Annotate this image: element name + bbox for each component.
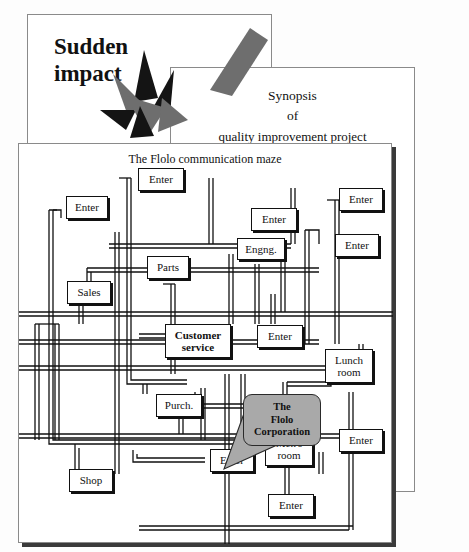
maze-node-label: Enter [149,173,173,185]
maze-node-label: Enter [262,213,286,225]
maze-node-label: Enter [349,434,373,446]
maze-node-customer-service: Customerservice [165,324,231,358]
maze-node-label: Enter [268,330,292,342]
maze-node-label: Lunchroom [335,354,363,378]
maze-node-enter-top-right: Enter [339,188,383,211]
maze-node-label: Enter [345,239,369,251]
callout-line-3: Corporation [254,426,310,439]
flolo-maze-page: The Flolo communication maze [18,143,392,543]
maze-node-shop: Shop [69,469,113,492]
maze-node-label: Customerservice [175,329,221,353]
scanned-document-canvas: Sudden impact Synopsis of quality improv… [0,0,469,552]
maze-node-label: Enter [349,193,373,205]
gray-diagonal-bar-icon [206,18,316,96]
maze-node-sales: Sales [67,281,111,304]
maze-node-label: Enter [75,201,99,213]
callout-line-1: The [254,401,310,414]
synopsis-line-2: of [171,106,414,126]
maze-node-enter-right-second: Enter [335,234,379,257]
starburst-explosion-icon [96,44,192,140]
maze-node-label: Parts [157,261,179,273]
maze-node-enter-upper-mid: Enter [251,208,297,231]
maze-node-label: Engng. [245,243,276,255]
maze-node-lunch-room: Lunchroom [325,349,373,383]
maze-node-label: Sales [77,286,100,298]
maze-node-enter-lower-right: Enter [339,429,383,452]
maze-node-enter-center-right: Enter [257,325,303,348]
maze-node-enter-top-left: Enter [66,196,108,219]
maze-node-engng: Engng. [237,238,285,260]
flolo-corporation-callout: The Flolo Corporation [243,394,321,446]
maze-node-label: Shop [80,474,103,486]
maze-node-parts: Parts [147,256,189,279]
callout-line-2: Flolo [254,414,310,427]
maze-node-enter-top-center: Enter [138,168,184,191]
